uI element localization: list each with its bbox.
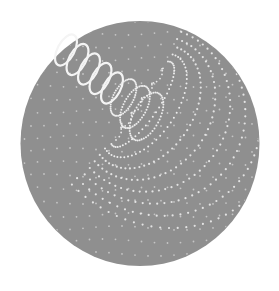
coil-field-illustration — [0, 0, 279, 291]
gray-disc — [21, 21, 260, 266]
diagram-canvas — [0, 0, 279, 291]
